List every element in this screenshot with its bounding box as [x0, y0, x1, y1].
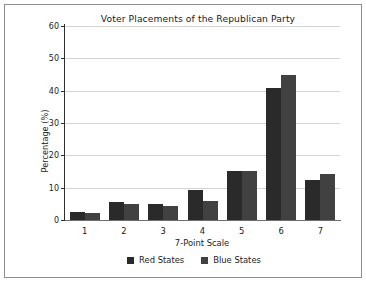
- bar-group-1: [70, 26, 100, 220]
- x-tick-label-1: 1: [82, 226, 87, 236]
- bar-group-3: [148, 26, 178, 220]
- bar-red-states-5: [227, 171, 242, 220]
- y-tick-label: 60: [49, 22, 59, 31]
- legend-swatch-icon: [201, 257, 208, 264]
- y-tick-label: 10: [49, 183, 59, 192]
- y-tick-label: 0: [54, 216, 59, 225]
- y-tick-mark-60: [61, 26, 65, 27]
- bar-blue-states-4: [203, 201, 218, 220]
- y-tick-mark-30: [61, 123, 65, 124]
- y-tick-mark-40: [61, 91, 65, 92]
- x-tick-label-6: 6: [278, 226, 283, 236]
- x-tick-label-2: 2: [121, 226, 126, 236]
- y-tick-mark-50: [61, 58, 65, 59]
- bar-group-6: [266, 26, 296, 220]
- bar-group-4: [188, 26, 218, 220]
- bar-blue-states-2: [124, 204, 139, 220]
- bar-red-states-6: [266, 88, 281, 220]
- x-tick-label-7: 7: [318, 226, 323, 236]
- legend-item-blue-states[interactable]: Blue States: [201, 255, 261, 265]
- y-tick-label: 40: [49, 86, 59, 95]
- bar-blue-states-7: [320, 174, 335, 220]
- bar-group-7: [305, 26, 335, 220]
- bar-blue-states-5: [242, 171, 257, 220]
- legend-label: Red States: [139, 255, 184, 265]
- bar-red-states-1: [70, 212, 85, 220]
- legend-swatch-icon: [127, 257, 134, 264]
- legend-item-red-states[interactable]: Red States: [127, 255, 184, 265]
- bar-red-states-4: [188, 190, 203, 220]
- bar-blue-states-1: [85, 213, 100, 220]
- x-tick-label-3: 3: [161, 226, 166, 236]
- y-tick-mark-20: [61, 155, 65, 156]
- bar-red-states-2: [109, 202, 124, 220]
- chart-legend: Red StatesBlue States: [0, 255, 366, 265]
- chart-figure: Voter Placements of the Republican Party…: [0, 0, 366, 282]
- y-tick-mark-0: [61, 220, 65, 221]
- bar-blue-states-6: [281, 75, 296, 221]
- bar-group-2: [109, 26, 139, 220]
- bar-group-5: [227, 26, 257, 220]
- x-tick-label-5: 5: [239, 226, 244, 236]
- y-tick-label: 30: [49, 119, 59, 128]
- bar-red-states-7: [305, 180, 320, 220]
- y-tick-label: 50: [49, 54, 59, 63]
- y-tick-label: 20: [49, 151, 59, 160]
- y-tick-mark-10: [61, 188, 65, 189]
- x-tick-label-4: 4: [200, 226, 205, 236]
- plot-area: 0102030405060 1234567: [65, 26, 340, 220]
- bar-red-states-3: [148, 204, 163, 220]
- gridline-y-0: [65, 220, 340, 221]
- bar-blue-states-3: [163, 206, 178, 220]
- legend-label: Blue States: [213, 255, 261, 265]
- x-axis-label: 7-Point Scale: [0, 238, 366, 248]
